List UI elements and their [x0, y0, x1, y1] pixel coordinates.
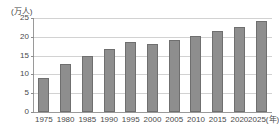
bar-slot — [55, 18, 77, 112]
y-axis-tick-label: 25 — [20, 14, 29, 22]
bar — [190, 36, 201, 112]
x-axis-unit-label: (年) — [266, 115, 279, 124]
x-axis-tick-label: 2020 — [231, 115, 249, 124]
y-axis-tick-label: 20 — [20, 33, 29, 41]
y-axis-tick — [31, 112, 34, 113]
bar — [82, 56, 93, 112]
bar-slot — [163, 18, 185, 112]
bar-slot — [250, 18, 272, 112]
bar-series — [33, 18, 272, 112]
bar-slot — [76, 18, 98, 112]
x-axis-tick-label: 2025(年) — [248, 115, 279, 124]
bar-slot — [207, 18, 229, 112]
x-axis-tick-label: 2005 — [165, 115, 183, 124]
x-axis-tick-label: 2010 — [187, 115, 205, 124]
bar-slot — [142, 18, 164, 112]
bar-slot — [120, 18, 142, 112]
bar-slot — [98, 18, 120, 112]
bar-chart: (万人) 0510152025 197519801985199019952000… — [0, 0, 279, 137]
x-axis-tick-label: 1975 — [35, 115, 53, 124]
bar — [60, 64, 71, 112]
bar — [104, 49, 115, 112]
bar — [125, 42, 136, 112]
x-axis-tick-label: 1995 — [122, 115, 140, 124]
x-axis-tick-label: 2015 — [209, 115, 227, 124]
bar — [234, 27, 245, 112]
x-axis-tick-label: 1990 — [100, 115, 118, 124]
bar — [256, 21, 267, 112]
plot-area: 0510152025 — [33, 18, 272, 112]
bar — [147, 44, 158, 112]
y-axis-tick-label: 15 — [20, 52, 29, 60]
x-axis-tick-label: 2000 — [144, 115, 162, 124]
bar-slot — [33, 18, 55, 112]
bar-slot — [229, 18, 251, 112]
bar-slot — [185, 18, 207, 112]
x-axis-line — [33, 112, 272, 113]
y-axis-tick-label: 0 — [25, 108, 29, 116]
bar — [169, 40, 180, 112]
x-axis-tick-label: 1980 — [57, 115, 75, 124]
y-axis-tick-label: 10 — [20, 70, 29, 78]
bar — [212, 31, 223, 112]
bar — [38, 78, 49, 112]
x-axis-tick-label: 1985 — [78, 115, 96, 124]
y-axis-tick-label: 5 — [25, 89, 29, 97]
